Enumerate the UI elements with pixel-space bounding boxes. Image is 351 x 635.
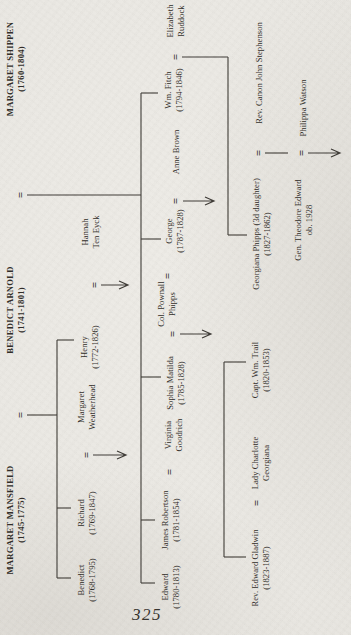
union-mark-mansfield-arnold: =: [16, 412, 26, 418]
person-anne-brown: Anne Brown: [171, 130, 182, 175]
person-margaret-shippen: MARGARET SHIPPEN(1760-1804): [5, 22, 27, 116]
person-name-line: (1768-1795): [87, 558, 98, 602]
person-sophia-matilda: Sophia Matilda(1785-1828): [165, 356, 187, 410]
scanned-book-page: MARGARET MANSFIELD(1745-1775)BENEDICT AR…: [0, 0, 351, 635]
person-name-line: (1745-1775): [16, 465, 27, 574]
person-hannah-ten-eyck: HannahTen Eyck: [80, 215, 102, 248]
person-name-line: (1787-1828): [175, 209, 186, 253]
person-name-line: Sophia Matilda: [165, 356, 176, 410]
union-mark-richard-weatherhead: =: [82, 452, 92, 458]
person-name-line: Henry: [79, 325, 90, 369]
person-name-line: Goodrich: [174, 419, 185, 452]
person-name-line: James Robertson: [160, 490, 171, 549]
person-name-line: (1772-1826): [90, 325, 101, 369]
person-gen-theodore-edward: Gen. Theodore Edwardob. 1928: [293, 179, 315, 260]
person-name-line: Phipps: [167, 281, 178, 327]
person-name-line: BENEDICT ARNOLD: [5, 266, 16, 353]
person-name-line: Rev. Edward Gladwin: [250, 529, 261, 606]
person-james-robertson: James Robertson(1781-1854): [160, 490, 182, 549]
person-name-line: Georgiana Phipps (3d daughter): [251, 178, 262, 290]
person-wm-fitch: Wm. Fitch(1794-1846): [163, 68, 185, 112]
union-mark-theodore-philippa: =: [297, 150, 307, 156]
person-name-line: Virginia: [163, 419, 174, 452]
person-name-line: (1780-1813): [171, 565, 182, 609]
person-richard: Richard(1769-1847): [76, 491, 98, 535]
person-col-pownall-phipps: Col. PownallPhipps: [156, 281, 178, 327]
person-name-line: Philippa Watson: [298, 79, 309, 136]
person-name-line: Hannah: [80, 215, 91, 248]
person-rev-edward-gladwin: Rev. Edward Gladwin(1823-1887): [250, 529, 272, 606]
union-mark-james-virginia: =: [165, 469, 175, 475]
person-virginia-goodrich: VirginiaGoodrich: [163, 419, 185, 452]
person-benedict-jr: Benedict(1768-1795): [76, 558, 98, 602]
page-number: 325: [132, 605, 162, 625]
person-name-line: Elizabeth: [165, 5, 176, 38]
person-name-line: Richard: [76, 491, 87, 535]
person-name-line: Margaret: [76, 384, 87, 429]
person-name-line: (1827-1862): [262, 178, 273, 290]
issue-arrow: [183, 197, 214, 205]
person-name-line: ob. 1928: [304, 179, 315, 260]
union-mark-georgiana-stephenson: =: [254, 150, 264, 156]
family-tree-canvas: MARGARET MANSFIELD(1745-1775)BENEDICT AR…: [0, 0, 351, 635]
person-henry: Henry(1772-1826): [79, 325, 101, 369]
person-name-line: (1769-1847): [87, 491, 98, 535]
issue-arrow: [180, 330, 211, 338]
person-name-line: Capt. Wm. Trail: [250, 342, 261, 399]
person-margaret-mansfield: MARGARET MANSFIELD(1745-1775): [5, 465, 27, 574]
person-name-line: (1823-1887): [261, 529, 272, 606]
person-name-line: Benedict: [76, 558, 87, 602]
person-georgiana-phipps: Georgiana Phipps (3d daughter)(1827-1862…: [251, 178, 273, 290]
issue-arrow: [101, 281, 128, 289]
person-name-line: Georgiana: [261, 437, 272, 490]
person-name-line: (1741-1801): [16, 266, 27, 353]
union-mark-gladwin-charlotte: =: [252, 500, 262, 506]
person-name-line: (1760-1804): [16, 22, 27, 116]
issue-arrow: [93, 451, 126, 459]
person-name-line: Anne Brown: [171, 130, 182, 175]
person-rev-canon-john-stephenson: Rev. Canon John Stephenson: [254, 22, 265, 124]
person-name-line: Lady Charlotte: [250, 437, 261, 490]
union-mark-extra-mark: =: [163, 273, 173, 279]
person-name-line: (1781-1854): [171, 490, 182, 549]
person-george: George(1787-1828): [164, 209, 186, 253]
union-mark-arnold-shippen: =: [16, 192, 26, 198]
person-name-line: MARGARET SHIPPEN: [5, 22, 16, 116]
person-margaret-weatherhead: MargaretWeatherhead: [76, 384, 98, 429]
person-name-line: Col. Pownall: [156, 281, 167, 327]
person-name-line: Rev. Canon John Stephenson: [254, 22, 265, 124]
issue-arrow: [308, 149, 340, 157]
person-name-line: Edward: [160, 565, 171, 609]
person-name-line: (1794-1846): [174, 68, 185, 112]
person-capt-wm-trail: Capt. Wm. Trail(1820-1853): [250, 342, 272, 399]
person-benedict-arnold: BENEDICT ARNOLD(1741-1801): [5, 266, 27, 353]
person-lady-charlotte-georgiana: Lady CharlotteGeorgiana: [250, 437, 272, 490]
union-mark-fitch-ruddock: =: [171, 54, 181, 60]
person-philippa-watson: Philippa Watson: [298, 79, 309, 136]
union-mark-george-anne: =: [171, 198, 181, 204]
union-mark-sophia-phipps: =: [168, 331, 178, 337]
union-mark-henry-hannah: =: [90, 282, 100, 288]
person-name-line: Ruddock: [176, 5, 187, 38]
person-name-line: (1785-1828): [176, 356, 187, 410]
person-name-line: George: [164, 209, 175, 253]
person-name-line: Gen. Theodore Edward: [293, 179, 304, 260]
person-name-line: Ten Eyck: [91, 215, 102, 248]
person-name-line: (1820-1853): [261, 342, 272, 399]
person-name-line: Weatherhead: [87, 384, 98, 429]
person-name-line: Wm. Fitch: [163, 68, 174, 112]
person-elizabeth-ruddock: ElizabethRuddock: [165, 5, 187, 38]
person-name-line: MARGARET MANSFIELD: [5, 465, 16, 574]
person-edward: Edward(1780-1813): [160, 565, 182, 609]
